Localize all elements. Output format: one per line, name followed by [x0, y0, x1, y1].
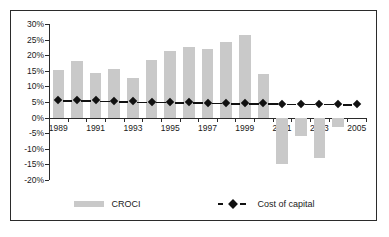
cost-of-capital-marker [278, 99, 286, 107]
y-axis-line [49, 24, 50, 180]
cost-of-capital-segment [175, 102, 185, 104]
legend-item-croci: CROCI [74, 200, 140, 209]
y-tick-label: -15% [24, 160, 44, 169]
cost-of-capital-segment [137, 102, 147, 104]
y-tick-mark [45, 164, 49, 165]
cost-of-capital-segment [63, 100, 73, 102]
cost-of-capital-marker [315, 100, 323, 108]
legend-label-croci: CROCI [111, 200, 140, 209]
x-tick-mark [198, 118, 199, 122]
x-tick-label: 1995 [161, 124, 180, 133]
chart-legend: CROCI Cost of capital [11, 194, 378, 214]
cost-of-capital-segment [231, 103, 241, 105]
x-tick-mark [310, 118, 311, 122]
legend-label-cost-of-capital: Cost of capital [257, 200, 314, 209]
cost-of-capital-marker [334, 100, 342, 108]
y-tick-mark [45, 102, 49, 103]
y-tick-label: -20% [24, 176, 44, 185]
bar [53, 70, 65, 117]
cost-of-capital-segment [343, 104, 353, 106]
x-tick-mark [142, 118, 143, 122]
cost-of-capital-marker [352, 100, 360, 108]
x-tick-label: 1999 [235, 124, 254, 133]
cost-of-capital-segment [100, 101, 110, 103]
x-tick-label: 1993 [123, 124, 142, 133]
cost-of-capital-segment [287, 104, 297, 106]
x-tick-mark [49, 118, 50, 122]
cost-of-capital-segment [268, 103, 278, 105]
cost-of-capital-segment [119, 101, 129, 103]
cost-of-capital-segment [156, 102, 166, 104]
bar [108, 69, 120, 117]
x-tick-mark [68, 118, 69, 122]
cost-of-capital-segment [305, 104, 315, 106]
y-tick-label: 20% [27, 51, 44, 60]
y-tick-label: -10% [24, 145, 44, 154]
y-tick-label: 10% [27, 82, 44, 91]
x-tick-mark [124, 118, 125, 122]
bar [276, 118, 288, 165]
cost-of-capital-segment [324, 104, 334, 106]
cost-of-capital-segment [193, 102, 203, 104]
bar [332, 118, 344, 127]
x-tick-label: 1989 [49, 124, 68, 133]
y-tick-mark [45, 55, 49, 56]
x-tick-mark [366, 118, 367, 122]
x-tick-mark [180, 118, 181, 122]
x-tick-label: 1991 [86, 124, 105, 133]
y-tick-mark [45, 71, 49, 72]
y-tick-label: 5% [32, 98, 44, 107]
y-tick-label: 0% [32, 113, 44, 122]
x-tick-mark [86, 118, 87, 122]
bar-swatch-icon [74, 201, 104, 207]
y-tick-mark [45, 133, 49, 134]
x-tick-mark [235, 118, 236, 122]
cost-of-capital-marker [296, 99, 304, 107]
dashed-diamond-swatch-icon [218, 200, 250, 208]
x-tick-mark [273, 118, 274, 122]
y-tick-label: 25% [27, 35, 44, 44]
y-tick-mark [45, 40, 49, 41]
x-tick-mark [329, 118, 330, 122]
y-tick-label: -5% [29, 129, 44, 138]
cost-of-capital-segment [81, 100, 91, 102]
x-tick-mark [254, 118, 255, 122]
y-tick-mark [45, 180, 49, 181]
cost-of-capital-segment [212, 103, 222, 105]
bar [71, 61, 83, 118]
bar [295, 118, 307, 137]
x-tick-mark [291, 118, 292, 122]
bar [314, 118, 326, 159]
bar [146, 60, 158, 118]
legend-item-cost-of-capital: Cost of capital [218, 200, 314, 209]
y-tick-mark [45, 149, 49, 150]
chart-frame: 30%25%20%15%10%5%0%-5%-10%-15%-20% 19891… [10, 10, 377, 221]
bar [183, 47, 195, 117]
bar [258, 74, 270, 118]
cost-of-capital-segment [249, 103, 259, 105]
y-tick-label: 30% [27, 20, 44, 29]
plot-area: 30%25%20%15%10%5%0%-5%-10%-15%-20% 19891… [49, 24, 366, 180]
y-tick-mark [45, 86, 49, 87]
x-tick-mark [105, 118, 106, 122]
y-tick-mark [45, 24, 49, 25]
x-tick-label: 2005 [347, 124, 366, 133]
y-tick-label: 15% [27, 67, 44, 76]
x-tick-mark [161, 118, 162, 122]
x-tick-mark [347, 118, 348, 122]
x-tick-label: 1997 [198, 124, 217, 133]
x-tick-mark [217, 118, 218, 122]
bar [164, 51, 176, 118]
